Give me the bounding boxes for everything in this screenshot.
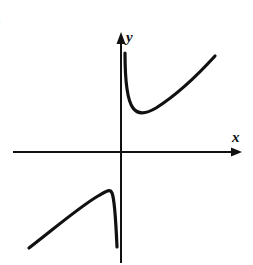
y-axis-label: y (126, 30, 133, 45)
x-axis-arrow-icon (231, 148, 242, 157)
x-axis-label: x (232, 130, 240, 145)
curve-lower-left-branch (29, 191, 117, 248)
y-axis-arrow-icon (117, 32, 126, 44)
curve-upper-right-branch (125, 53, 215, 113)
